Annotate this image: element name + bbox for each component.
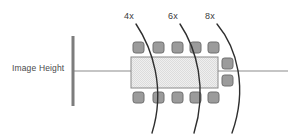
optical-element-right-2 xyxy=(222,75,233,86)
elements-row-top xyxy=(133,42,219,53)
arc-label-4x: 4x xyxy=(124,12,134,21)
optical-element-bottom-1 xyxy=(133,92,144,103)
diagram-canvas: Image Height 4x 6x 8x xyxy=(0,0,291,139)
optical-element-bottom-5 xyxy=(208,92,219,103)
optical-element-top-5 xyxy=(208,42,219,53)
optical-element-top-3 xyxy=(172,42,183,53)
optical-element-top-1 xyxy=(133,42,144,53)
arc-label-8x: 8x xyxy=(205,12,215,21)
arc-label-6x: 6x xyxy=(168,12,178,21)
image-height-label: Image Height xyxy=(12,64,64,73)
optical-element-top-2 xyxy=(153,42,164,53)
lens-body-rect xyxy=(131,57,218,88)
elements-column-right xyxy=(222,58,233,86)
optical-element-right-1 xyxy=(222,58,233,69)
image-plane-bar xyxy=(72,36,75,106)
optical-element-bottom-3 xyxy=(172,92,183,103)
optical-element-bottom-2 xyxy=(153,92,164,103)
elements-row-bottom xyxy=(133,92,219,103)
